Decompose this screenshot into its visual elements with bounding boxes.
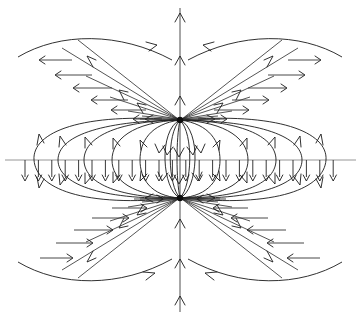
lower-pole-marker [177, 195, 183, 201]
dipole-field-figure [0, 0, 360, 318]
upper-pole-marker [177, 117, 183, 123]
field-diagram-canvas [0, 0, 360, 318]
